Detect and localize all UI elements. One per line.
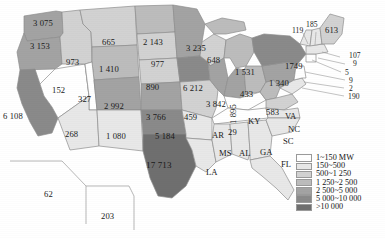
state-shape-sc — [266, 118, 300, 136]
legend-swatch-5 — [296, 187, 312, 194]
legend-label-7: >10 000 — [316, 203, 343, 211]
state-shape-co — [94, 77, 141, 110]
leader-line-ma — [322, 52, 340, 57]
state-shape-mi — [224, 34, 254, 68]
state-shape-wy — [92, 45, 139, 80]
state-shape-mi-up — [205, 18, 246, 34]
state-shape-wa — [24, 11, 63, 41]
legend-row: >10 000 — [296, 203, 384, 211]
state-shape-ms — [212, 124, 232, 162]
leader-line-ri — [318, 58, 345, 64]
state-shape-tx — [143, 134, 196, 198]
state-shape-al — [230, 122, 250, 160]
state-shape-in — [224, 68, 246, 98]
state-shape-nd — [135, 5, 175, 34]
state-shape-ok — [141, 110, 186, 134]
leader-line-de — [304, 82, 344, 88]
state-shape-ny — [252, 34, 306, 66]
legend-swatch-6 — [296, 195, 312, 202]
legend-swatch-1 — [296, 154, 312, 161]
state-shape-nm — [97, 110, 143, 151]
state-shape-mn — [173, 5, 205, 58]
legend-swatch-3 — [296, 171, 312, 178]
map-legend: 1~150 MW 150~500 500~1 250 1 250~2 500 2… — [296, 154, 384, 211]
state-shape-sd — [137, 32, 177, 60]
leader-line-md — [302, 88, 344, 96]
leader-line-ct — [312, 60, 341, 72]
legend-swatch-2 — [296, 163, 312, 170]
legend-swatch-4 — [296, 179, 312, 186]
state-shape-me — [320, 14, 344, 44]
state-shape-nj — [294, 66, 306, 80]
state-shape-ne — [139, 58, 180, 84]
legend-swatch-7 — [296, 204, 312, 211]
inset-alaska-outline — [10, 161, 86, 224]
choropleth-map-figure: 3 075 3 153 665 2 143 3 235 973 1 410 97… — [0, 0, 385, 238]
state-shape-fl — [250, 156, 294, 200]
inset-hawaii-outline — [86, 186, 134, 230]
state-shape-ks — [141, 82, 182, 110]
leader-line-nj — [305, 72, 345, 80]
